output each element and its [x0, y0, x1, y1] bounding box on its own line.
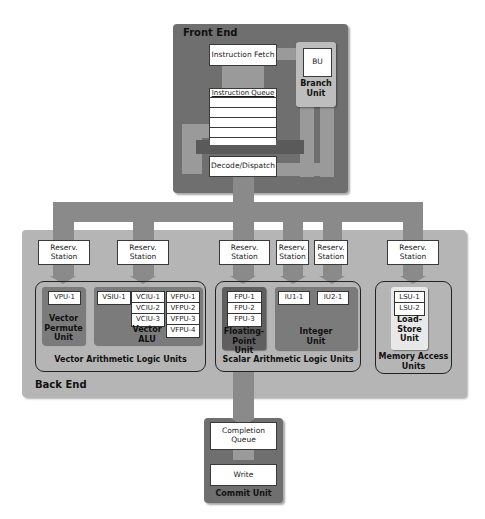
- bu-chip: BU: [303, 48, 332, 77]
- load-store-unit-label: Load- Store Unit: [391, 315, 428, 344]
- instruction-queue-label: Instruction Queue: [210, 89, 276, 97]
- queue-slot: [210, 127, 276, 137]
- reservation-station-iu1: Reserv.Station: [276, 240, 309, 265]
- scalar-group-label: Scalar Arithmetic Logic Units: [215, 355, 361, 364]
- vector-permute-unit-label: Vector Permute Unit: [42, 314, 85, 343]
- integer-unit: IU1-1 IU2-1 Integer Unit: [275, 287, 357, 350]
- feedback-path-left-h: [182, 124, 209, 138]
- vector-alu-unit: VSIU-1 VCIU-1 VCIU-2 VCIU-3 VFPU-1 VFPU-…: [94, 287, 202, 345]
- floating-point-unit-label: Floating- Point Unit: [222, 327, 266, 356]
- iu1-1-chip: IU1-1: [278, 291, 310, 305]
- instruction-fetch-box: Instruction Fetch: [209, 44, 277, 66]
- completion-queue-box: Completion Queue: [210, 422, 277, 450]
- back-end-title: Back End: [35, 379, 87, 390]
- vfpu-4-chip: VFPU-4: [166, 324, 200, 338]
- reservation-station-valu: Reserv.Station: [117, 240, 169, 265]
- fetch-to-queue-arrow: [222, 66, 264, 88]
- fpu-3-chip: FPU-3: [227, 313, 262, 327]
- queue-to-write-arrow: [233, 449, 254, 460]
- dispatch-trunk: [233, 177, 254, 203]
- floating-point-unit: FPU-1 FPU-2 FPU-3 Floating- Point Unit: [222, 287, 266, 350]
- dispatch-bus: [53, 202, 423, 222]
- queue-slot: [210, 117, 276, 127]
- integer-unit-label: Integer Unit: [275, 327, 357, 346]
- iu2-1-chip: IU2-1: [317, 291, 349, 305]
- vector-alu-label: Vector ALU: [128, 325, 166, 344]
- memory-group-label: Memory Access Units: [375, 352, 452, 371]
- feedback-path-bottom: [277, 163, 334, 176]
- queue-slot: [210, 97, 276, 107]
- vector-permute-unit: VPU-1 Vector Permute Unit: [42, 287, 85, 345]
- vpu-1-chip: VPU-1: [48, 291, 81, 305]
- load-store-unit: LSU-1 LSU-2 Load- Store Unit: [391, 287, 428, 350]
- commit-unit-title: Commit Unit: [204, 489, 283, 498]
- front-end-title: Front End: [183, 27, 237, 38]
- vector-group-label: Vector Arithmetic Logic Units: [35, 355, 206, 364]
- decode-dispatch-box: Decode/Dispatch: [209, 156, 277, 177]
- vsiu-1-chip: VSIU-1: [97, 291, 131, 305]
- lsu-2-chip: LSU-2: [394, 302, 425, 316]
- queue-slot: [210, 137, 276, 145]
- reservation-station-fpu: Reserv.Station: [219, 240, 270, 265]
- reservation-station-vpu: Reserv.Station: [38, 240, 90, 265]
- reservation-station-lsu: Reserv.Station: [387, 240, 439, 265]
- queue-slot: [210, 107, 276, 117]
- branch-unit-label: Branch Unit: [296, 79, 336, 98]
- branch-unit: BU Branch Unit: [296, 42, 336, 107]
- write-box: Write: [210, 464, 277, 486]
- fetch-to-branch-path: [277, 48, 296, 60]
- instruction-queue: Instruction Queue: [209, 88, 277, 140]
- commit-trunk: [233, 372, 254, 418]
- reservation-station-iu2: Reserv.Station: [314, 240, 348, 265]
